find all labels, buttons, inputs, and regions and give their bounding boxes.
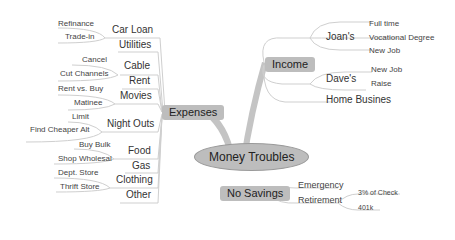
node-joans[interactable]: Joan's bbox=[326, 32, 355, 42]
leaf-3pct-of-check[interactable]: 3% of Check bbox=[358, 189, 398, 196]
node-food[interactable]: Food bbox=[128, 146, 151, 156]
node-retirement[interactable]: Retirement bbox=[298, 196, 342, 205]
leaf-401k[interactable]: 401k bbox=[358, 204, 373, 211]
branch-no-savings[interactable]: No Savings bbox=[220, 186, 290, 201]
leaf-dept-store[interactable]: Dept. Store bbox=[58, 169, 98, 177]
leaf-cut-channels[interactable]: Cut Channels bbox=[60, 70, 108, 78]
node-cable[interactable]: Cable bbox=[124, 61, 150, 71]
leaf-new-job-dave[interactable]: New Job bbox=[371, 66, 402, 74]
node-emergency[interactable]: Emergency bbox=[298, 181, 344, 190]
node-utilities[interactable]: Utilities bbox=[119, 40, 151, 50]
node-gas[interactable]: Gas bbox=[132, 161, 150, 171]
leaf-trade-in[interactable]: Trade-in bbox=[65, 33, 95, 41]
leaf-matinee[interactable]: Matinee bbox=[74, 99, 102, 107]
branch-expenses[interactable]: Expenses bbox=[162, 105, 224, 120]
leaf-limit[interactable]: Limit bbox=[72, 113, 89, 121]
node-daves[interactable]: Dave's bbox=[326, 74, 356, 84]
node-home-busines[interactable]: Home Busines bbox=[326, 95, 391, 105]
node-car-loan[interactable]: Car Loan bbox=[112, 25, 153, 35]
node-movies[interactable]: Movies bbox=[120, 91, 152, 101]
leaf-raise[interactable]: Raise bbox=[371, 80, 391, 88]
leaf-new-job-joan[interactable]: New Job bbox=[369, 47, 400, 55]
branch-income[interactable]: Income bbox=[265, 57, 315, 72]
root-node[interactable]: Money Troubles bbox=[194, 143, 309, 171]
node-other[interactable]: Other bbox=[126, 190, 151, 200]
node-rent[interactable]: Rent bbox=[129, 76, 150, 86]
node-night-outs[interactable]: Night Outs bbox=[107, 119, 154, 129]
leaf-shop-wholesal[interactable]: Shop Wholesal bbox=[58, 155, 112, 163]
leaf-rent-vs-buy[interactable]: Rent vs. Buy bbox=[58, 85, 103, 93]
leaf-cancel[interactable]: Cancel bbox=[82, 56, 107, 64]
leaf-buy-bulk[interactable]: Buy Bulk bbox=[79, 141, 111, 149]
leaf-find-cheaper-alt[interactable]: Find Cheaper Alt bbox=[30, 126, 90, 134]
leaf-vocational-degree[interactable]: Vocational Degree bbox=[369, 34, 434, 42]
leaf-thrift-store[interactable]: Thrift Store bbox=[60, 183, 100, 191]
leaf-refinance[interactable]: Refinance bbox=[58, 20, 94, 28]
node-clothing[interactable]: Clothing bbox=[116, 175, 153, 185]
leaf-full-time[interactable]: Full time bbox=[369, 20, 399, 28]
